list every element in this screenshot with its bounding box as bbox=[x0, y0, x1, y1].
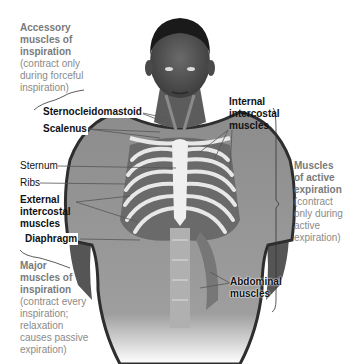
active-desc-line: (contract bbox=[294, 196, 343, 208]
sternum-bone bbox=[172, 139, 188, 226]
label-internal-intercostal: Internal intercostal muscles bbox=[229, 96, 280, 132]
label-diaphragm: Diaphragm bbox=[24, 233, 78, 245]
external-intercostal-line: External bbox=[20, 194, 71, 206]
accessory-muscles-group: Accessory muscles of inspiration (contra… bbox=[20, 22, 83, 94]
major-desc-line: relaxation bbox=[20, 320, 88, 332]
internal-intercostal-line: Internal bbox=[229, 96, 280, 108]
accessory-desc-line: during forceful bbox=[20, 70, 83, 82]
active-expiration-group: Muscles of active expiration (contract o… bbox=[294, 160, 343, 244]
active-title-line: Muscles bbox=[294, 160, 343, 172]
accessory-title-line: muscles of bbox=[20, 34, 83, 46]
accessory-title-line: inspiration bbox=[20, 46, 83, 58]
abdominal-line: muscles bbox=[230, 288, 282, 300]
rib-cage bbox=[120, 138, 240, 241]
major-title-line: Major bbox=[20, 260, 88, 272]
active-desc-line: active bbox=[294, 220, 343, 232]
label-abdominal-muscles: Abdominal muscles bbox=[230, 276, 282, 300]
major-title-line: muscles of bbox=[20, 272, 88, 284]
major-desc-line: (contract every bbox=[20, 296, 88, 308]
active-desc-line: only during bbox=[294, 208, 343, 220]
label-scalenus: Scalenus bbox=[42, 123, 88, 135]
accessory-desc-line: inspiration) bbox=[20, 82, 83, 94]
internal-intercostal-line: muscles bbox=[229, 120, 280, 132]
major-muscles-group: Major muscles of inspiration (contract e… bbox=[20, 260, 88, 356]
label-sternocleidomastoid: Sternocleidomastoid bbox=[42, 106, 143, 118]
major-desc-line: causes passive bbox=[20, 332, 88, 344]
abdominal-line: Abdominal bbox=[230, 276, 282, 288]
accessory-desc-line: (contract only bbox=[20, 58, 83, 70]
external-intercostal-line: intercostal bbox=[20, 206, 71, 218]
head bbox=[145, 18, 215, 98]
active-title-line: expiration bbox=[294, 184, 343, 196]
external-intercostal-line: muscles bbox=[20, 218, 71, 230]
major-desc-line: expiration) bbox=[20, 344, 88, 356]
major-desc-line: inspiration; bbox=[20, 308, 88, 320]
label-external-intercostal: External intercostal muscles bbox=[20, 194, 71, 230]
accessory-title-line: Accessory bbox=[20, 22, 83, 34]
active-title-line: of active bbox=[294, 172, 343, 184]
major-title-line: inspiration bbox=[20, 284, 88, 296]
label-ribs: Ribs bbox=[20, 177, 40, 189]
active-desc-line: expiration) bbox=[294, 232, 343, 244]
label-sternum: Sternum bbox=[20, 160, 58, 172]
internal-intercostal-line: intercostal bbox=[229, 108, 280, 120]
